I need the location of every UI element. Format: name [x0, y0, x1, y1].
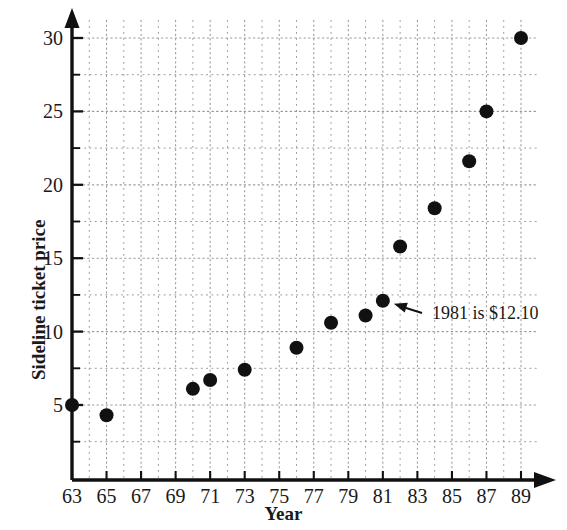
plot-area: 6365676971737577798183858789 51015202530… — [0, 0, 567, 530]
annotation-layer: 1981 is $12.10 — [394, 303, 539, 323]
data-point — [290, 341, 304, 355]
y-axis-arrowhead — [65, 8, 80, 28]
y-tick-label-20: 20 — [43, 174, 63, 196]
y-axis-title-wrapper: Sideline ticket price — [2, 90, 34, 390]
data-point — [186, 382, 200, 396]
axes — [65, 8, 557, 488]
y-tick-label-5: 5 — [53, 394, 63, 416]
data-point — [428, 201, 442, 215]
y-tick-label-30: 30 — [43, 27, 63, 49]
scatter-chart: 6365676971737577798183858789 51015202530… — [0, 0, 567, 530]
data-point — [100, 408, 114, 422]
data-point — [203, 373, 217, 387]
data-point — [238, 363, 252, 377]
data-point — [359, 308, 373, 322]
data-point — [462, 154, 476, 168]
x-axis-title: Year — [0, 503, 567, 525]
y-axis-title: Sideline ticket price — [28, 220, 50, 380]
annotation-text: 1981 is $12.10 — [432, 303, 539, 323]
data-point — [479, 104, 493, 118]
data-point — [65, 398, 79, 412]
y-tick-label-25: 25 — [43, 100, 63, 122]
x-axis-arrowhead — [534, 472, 556, 488]
vertical-minor-gridlines — [89, 20, 521, 478]
data-point — [324, 316, 338, 330]
annotation-arrowhead — [394, 303, 408, 313]
data-point — [514, 31, 528, 45]
data-point — [393, 239, 407, 253]
data-point — [376, 294, 390, 308]
